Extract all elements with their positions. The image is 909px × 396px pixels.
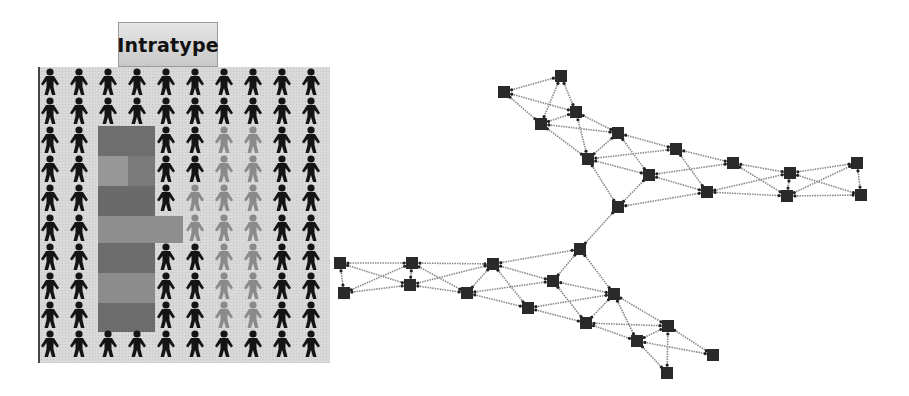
network-node-m1 bbox=[406, 257, 418, 269]
edge-arrowhead bbox=[401, 281, 404, 284]
network-edge bbox=[649, 163, 733, 175]
edge-arrowhead bbox=[666, 332, 669, 335]
network-node-c2 bbox=[612, 127, 624, 139]
edge-arrowhead bbox=[484, 264, 487, 267]
edge-arrowhead bbox=[400, 284, 403, 287]
edge-arrowhead bbox=[786, 186, 789, 189]
network-edge bbox=[340, 263, 410, 285]
network-node-g2 bbox=[851, 157, 863, 169]
edge-arrowhead bbox=[605, 291, 608, 294]
edge-arrowhead bbox=[584, 150, 587, 153]
network-node-d1 bbox=[643, 169, 655, 181]
edge-arrowhead bbox=[544, 277, 547, 280]
edge-arrowhead bbox=[793, 191, 796, 194]
edge-arrowhead bbox=[571, 249, 574, 252]
network-node-b1 bbox=[535, 118, 547, 130]
edge-arrowhead bbox=[402, 261, 405, 264]
edge-arrowhead bbox=[350, 290, 353, 293]
edge-arrowhead bbox=[659, 328, 662, 331]
network-edge bbox=[493, 249, 580, 264]
edge-arrowhead bbox=[632, 332, 635, 335]
network-edge bbox=[787, 195, 861, 196]
edge-arrowhead bbox=[556, 82, 559, 85]
edge-arrowhead bbox=[640, 171, 643, 174]
network-node-e2 bbox=[727, 157, 739, 169]
edge-arrowhead bbox=[473, 290, 476, 293]
edge-arrowhead bbox=[851, 194, 854, 197]
edge-arrowhead bbox=[713, 191, 716, 194]
network-node-j2 bbox=[574, 243, 586, 255]
edge-arrowhead bbox=[346, 264, 349, 267]
edge-arrowhead bbox=[655, 172, 658, 175]
edge-arrowhead bbox=[658, 324, 661, 327]
edge-arrowhead bbox=[858, 185, 861, 188]
edge-arrowhead bbox=[796, 174, 799, 177]
network-edge bbox=[586, 323, 668, 326]
edge-arrowhead bbox=[567, 113, 570, 116]
edge-arrowhead bbox=[796, 170, 799, 173]
edge-arrowhead bbox=[473, 293, 476, 296]
edge-arrowhead bbox=[793, 194, 796, 197]
edge-arrowhead bbox=[410, 269, 413, 272]
edge-arrowhead bbox=[543, 281, 546, 284]
edge-arrowhead bbox=[624, 204, 627, 207]
edge-arrowhead bbox=[416, 285, 419, 288]
edge-arrowhead bbox=[643, 341, 646, 344]
edge-arrowhead bbox=[499, 265, 502, 268]
network-node-j1 bbox=[612, 201, 624, 213]
network-node-r2 bbox=[661, 367, 673, 379]
network-node-n1 bbox=[487, 258, 499, 270]
edge-arrowhead bbox=[594, 156, 597, 159]
edge-arrowhead bbox=[576, 118, 579, 121]
edge-arrowhead bbox=[409, 275, 412, 278]
network-node-d2 bbox=[670, 143, 682, 155]
network-node-n2 bbox=[461, 287, 473, 299]
edge-arrowhead bbox=[341, 283, 344, 286]
edge-arrowhead bbox=[666, 148, 669, 151]
edge-arrowhead bbox=[682, 149, 685, 152]
edge-arrowhead bbox=[510, 93, 513, 96]
network-node-o2 bbox=[522, 302, 534, 314]
edge-arrowhead bbox=[562, 82, 565, 85]
edge-arrowhead bbox=[403, 265, 406, 268]
network-edge bbox=[707, 192, 787, 196]
edge-arrowhead bbox=[457, 290, 460, 293]
network-node-o1 bbox=[547, 275, 559, 287]
edge-arrowhead bbox=[666, 363, 669, 366]
network-node-p2 bbox=[580, 317, 592, 329]
edge-arrowhead bbox=[724, 159, 727, 162]
edge-arrowhead bbox=[592, 324, 595, 327]
network-node-l2 bbox=[338, 287, 350, 299]
edge-arrowhead bbox=[547, 123, 550, 126]
edge-arrowhead bbox=[582, 114, 585, 117]
edge-arrowhead bbox=[698, 192, 701, 195]
network-node-r1 bbox=[707, 349, 719, 361]
network-edge bbox=[467, 281, 553, 293]
edge-arrowhead bbox=[567, 108, 570, 111]
edge-arrowhead bbox=[787, 179, 790, 182]
edge-arrowhead bbox=[609, 128, 612, 131]
edge-arrowhead bbox=[571, 103, 574, 106]
edge-arrowhead bbox=[777, 194, 780, 197]
network-node-c1 bbox=[582, 153, 594, 165]
network-node-l1 bbox=[334, 257, 346, 269]
edge-arrowhead bbox=[739, 163, 742, 166]
network-node-g1 bbox=[855, 189, 867, 201]
edge-arrowhead bbox=[605, 294, 608, 297]
edge-arrowhead bbox=[704, 352, 707, 355]
edge-arrowhead bbox=[510, 88, 513, 91]
edge-arrowhead bbox=[781, 170, 784, 173]
network-node-q1 bbox=[662, 320, 674, 332]
network-node-f2 bbox=[784, 167, 796, 179]
network-edge bbox=[588, 149, 676, 159]
edge-arrowhead bbox=[339, 269, 342, 272]
edge-arrowhead bbox=[547, 120, 550, 123]
network-node-a1 bbox=[498, 86, 510, 98]
network-edge bbox=[504, 92, 576, 112]
network-node-q2 bbox=[631, 335, 643, 347]
edge-arrowhead bbox=[519, 304, 522, 307]
network-edge bbox=[344, 263, 412, 293]
edge-arrowhead bbox=[416, 281, 419, 284]
network-node-m2 bbox=[404, 279, 416, 291]
edge-arrowhead bbox=[534, 308, 537, 311]
